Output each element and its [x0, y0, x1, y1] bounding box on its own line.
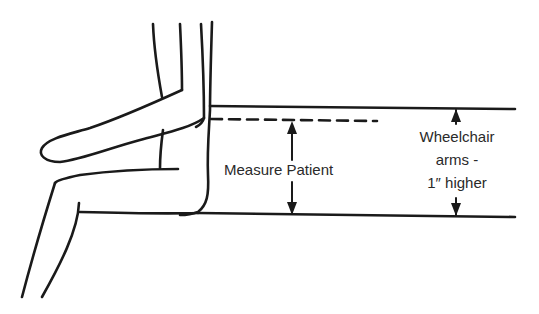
- patient-elbow-dashed-line: [211, 119, 377, 121]
- wheelchair-label-line3: 1″ higher: [402, 173, 512, 193]
- forearm-top: [41, 90, 204, 162]
- seat-line: [198, 213, 515, 217]
- upper-arm-front: [180, 24, 182, 90]
- wheelchair-arm-line: [210, 106, 515, 109]
- thigh-top: [55, 169, 178, 183]
- calf-back: [42, 203, 79, 297]
- upper-arm-back: [153, 24, 162, 97]
- wheelchair-label-line2: arms -: [402, 150, 512, 170]
- torso-back-line: [196, 24, 204, 127]
- measure-patient-label: Measure Patient: [224, 160, 333, 180]
- wheelchair-label-line1: Wheelchair: [402, 127, 512, 147]
- wheelchair-arrowhead-down-icon: [451, 203, 461, 216]
- thigh-bottom: [80, 212, 198, 213]
- measure-arrowhead-up-icon: [287, 121, 297, 134]
- wheelchair-arrowhead-up-icon: [451, 109, 461, 122]
- torso-front-line: [180, 22, 212, 215]
